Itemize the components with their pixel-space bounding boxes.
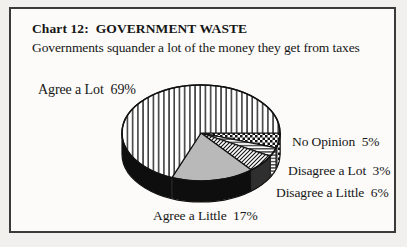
slice-label-no-opinion: No Opinion 5%	[292, 134, 379, 150]
slice-label-disagree-a-little: Disagree a Little 6%	[276, 185, 389, 201]
slice-label-disagree-a-lot: Disagree a Lot 3%	[288, 163, 390, 179]
slice-label-agree-a-lot: Agree a Lot 69%	[38, 82, 136, 98]
slice-label-agree-a-little: Agree a Little 17%	[153, 208, 258, 224]
scanned-chart-page: Chart 12: GOVERNMENT WASTE Governments s…	[0, 0, 407, 247]
